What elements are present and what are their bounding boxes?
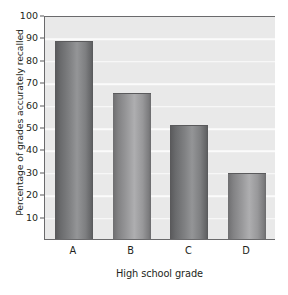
- x-axis-tick-labels: ABCD: [44, 246, 275, 262]
- y-tick-label: 100: [14, 11, 38, 21]
- x-tick-label: C: [185, 246, 192, 256]
- y-tick-label: 40: [14, 146, 38, 156]
- x-tick-label: B: [127, 246, 134, 256]
- y-axis-tick-labels: 102030405060708090100: [14, 16, 38, 240]
- x-tick-label: D: [242, 246, 250, 256]
- y-tick-label: 90: [14, 34, 38, 44]
- y-tick-label: 30: [14, 168, 38, 178]
- x-axis-title: High school grade: [44, 268, 275, 279]
- plot-area: [44, 16, 275, 240]
- bar-d: [228, 173, 266, 239]
- y-tick-label: 50: [14, 123, 38, 133]
- y-tick-label: 60: [14, 101, 38, 111]
- bar-a: [55, 41, 93, 239]
- y-tick-label: 10: [14, 213, 38, 223]
- y-tick-label: 70: [14, 78, 38, 88]
- x-tick-label: A: [70, 246, 77, 256]
- bar-b: [113, 93, 151, 239]
- y-tick-label: 80: [14, 56, 38, 66]
- y-tick-label: 20: [14, 190, 38, 200]
- bar-c: [170, 125, 208, 239]
- bar-chart-figure: Percentage of grades accurately recalled…: [0, 0, 288, 295]
